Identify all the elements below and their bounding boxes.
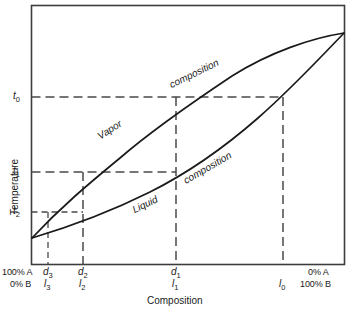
y-tick-label-t1: t1 [13, 166, 20, 179]
y-tick-t0-sub: 0 [16, 95, 20, 104]
x-axis-right-corner-bottom: 100% B [300, 280, 331, 289]
x-tick-label-l0: l0 [279, 279, 285, 292]
phase-diagram-figure: Temperature t0 t1 t2 100% A 0% B 0% A 10… [0, 0, 358, 312]
x-tick-label-l1: l1 [172, 279, 178, 292]
x-tick-l1-sub: 1 [174, 283, 178, 292]
x-tick-l3-sub: 3 [46, 283, 50, 292]
y-tick-t1-sub: 1 [16, 170, 20, 179]
x-tick-l0-sub: 0 [281, 283, 285, 292]
liquid-composition-curve [32, 33, 344, 238]
x-tick-label-l3: l3 [44, 279, 50, 292]
y-tick-label-t2: t2 [13, 206, 20, 219]
x-axis-left-corner-bottom: 0% B [10, 280, 31, 289]
x-axis-right-corner-top: 0% A [308, 268, 329, 277]
x-tick-label-l2: l2 [79, 279, 85, 292]
x-axis-left-corner-top: 100% A [2, 268, 32, 277]
x-tick-l2-sub: 2 [81, 283, 85, 292]
y-tick-label-t0: t0 [13, 91, 20, 104]
vapor-composition-curve [32, 33, 344, 238]
phase-diagram-canvas [0, 0, 358, 312]
y-tick-t2-sub: 2 [16, 210, 20, 219]
x-axis-title: Composition [147, 296, 203, 306]
